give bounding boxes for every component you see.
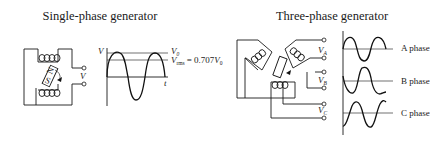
single-phase-plot: V t V0 Vrms= 0.707V0	[98, 46, 223, 106]
rotor-magnet-icon	[273, 56, 287, 78]
single-phase-circuit: N S V	[24, 49, 87, 105]
rotation-arrow-icon	[286, 70, 291, 75]
stator-coil-top-icon	[39, 55, 60, 62]
x-axis-label: t	[164, 78, 167, 88]
terminal-label-a: VA	[318, 45, 328, 56]
stator-coil-bottom-icon	[39, 90, 60, 97]
terminal-bottom	[82, 82, 86, 86]
stator-coil-c-icon	[272, 82, 288, 89]
phase-b-label: B phase	[401, 76, 430, 86]
terminal-top	[82, 66, 86, 70]
generator-diagram: Single-phase generator N S	[0, 0, 440, 144]
terminal-label-c: VC	[318, 105, 328, 116]
output-voltage-label: V	[80, 71, 87, 81]
phase-a-label: A phase	[401, 43, 430, 53]
phase-c-label: C phase	[401, 108, 430, 118]
stator-coil-a-icon	[250, 48, 267, 64]
y-axis-label: V	[98, 46, 105, 56]
three-phase-plot: A phase B phase C phase	[343, 31, 430, 135]
three-phase-circuit: VA VB VC	[237, 38, 328, 120]
stator-coil-b-icon	[289, 47, 306, 63]
rotation-arrow-icon	[57, 77, 62, 82]
phase-c-wave	[343, 101, 386, 127]
rotor-magnet-icon: N S	[39, 64, 57, 87]
terminal-label-b: VB	[318, 75, 328, 86]
three-phase-title: Three-phase generator	[276, 9, 389, 23]
single-phase-title: Single-phase generator	[43, 9, 159, 23]
